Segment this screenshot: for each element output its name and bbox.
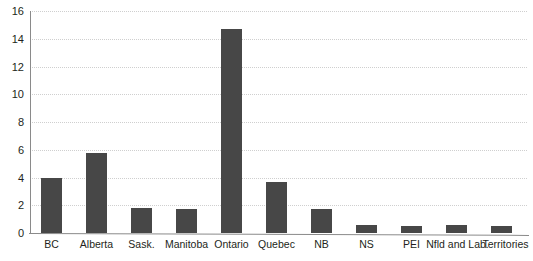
- bar-chart: 16 14 12 10 8 6 4 2 0 BC Alberta Sask. M…: [0, 0, 533, 261]
- x-tick-alberta: Alberta: [80, 238, 113, 250]
- y-tick-12: 12: [0, 62, 24, 73]
- y-tick-2: 2: [0, 200, 24, 211]
- y-axis-tick-labels: 16 14 12 10 8 6 4 2 0: [0, 11, 533, 234]
- y-tick-4: 4: [0, 173, 24, 184]
- x-tick-ns: NS: [359, 238, 374, 250]
- x-axis-tick-labels: BC Alberta Sask. Manitoba Ontario Quebec…: [30, 236, 530, 258]
- y-tick-8: 8: [0, 117, 24, 128]
- x-tick-territories: Territories: [482, 238, 528, 250]
- y-tick-16: 16: [0, 6, 24, 17]
- x-tick-quebec: Quebec: [258, 238, 295, 250]
- y-tick-14: 14: [0, 34, 24, 45]
- x-tick-bc: BC: [44, 238, 59, 250]
- x-tick-sask: Sask.: [128, 238, 154, 250]
- x-tick-manitoba: Manitoba: [165, 238, 208, 250]
- y-tick-10: 10: [0, 89, 24, 100]
- y-tick-0: 0: [0, 228, 24, 239]
- x-tick-nb: NB: [314, 238, 329, 250]
- y-tick-6: 6: [0, 145, 24, 156]
- x-tick-ontario: Ontario: [214, 238, 248, 250]
- x-tick-pei: PEI: [403, 238, 420, 250]
- x-tick-nfld-and-lab: Nfld and Lab.: [426, 238, 488, 250]
